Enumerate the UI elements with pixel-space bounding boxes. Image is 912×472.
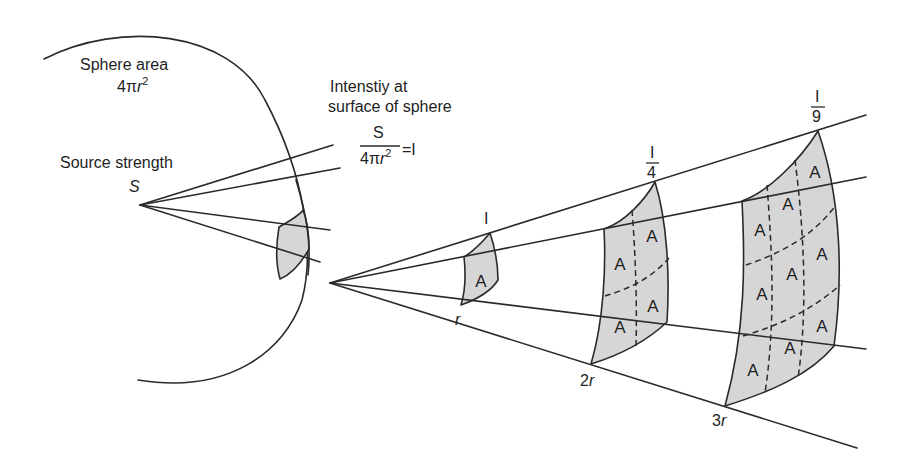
area-label-3r-5: A (786, 265, 798, 284)
intensity-3r-den: 9 (812, 108, 821, 125)
patch-r (461, 233, 498, 305)
distance-label-2r: 2r (580, 372, 595, 389)
intensity-label-line2: surface of sphere (328, 98, 452, 115)
area-label-2r-2: A (614, 255, 626, 274)
sphere-area-formula: 4πr2 (117, 75, 148, 95)
patch-2r (591, 182, 668, 364)
intensity-equals: =I (402, 141, 416, 158)
intensity-denominator: 4πr2 (360, 147, 391, 167)
area-label-2r-1: A (646, 227, 658, 246)
inverse-square-law-diagram: Sphere area 4πr2 Source strength S Inten… (0, 0, 912, 472)
distance-label-r: r (455, 311, 461, 328)
formula-exp: 2 (142, 75, 148, 87)
intensity-label-line1: Intenstiy at (330, 78, 408, 95)
denominator-base: 4π (360, 150, 380, 167)
area-label-3r-6: A (756, 285, 768, 304)
area-label-3r-7: A (816, 317, 828, 336)
sphere-surface-patch (277, 210, 309, 279)
area-label-3r-9: A (747, 361, 759, 380)
area-label-3r-3: A (754, 221, 766, 240)
intensity-3r-num: I (815, 88, 819, 105)
area-label-3r-8: A (784, 339, 796, 358)
intensity-2r-num: I (650, 144, 654, 161)
area-label-3r-4: A (816, 245, 828, 264)
intensity-2r-den: 4 (647, 164, 656, 181)
source-symbol: S (129, 178, 140, 195)
intensity-numerator: S (373, 124, 384, 141)
source-strength-label: Source strength (60, 154, 173, 171)
denominator-exp: 2 (385, 147, 391, 159)
sphere-group: Sphere area 4πr2 Source strength S Inten… (44, 36, 452, 383)
area-label-r: A (475, 272, 487, 291)
intensity-at-r: I (484, 210, 488, 227)
patch-3r (725, 131, 839, 406)
area-label-2r-3: A (647, 297, 659, 316)
intensity-at-2r: I 4 (646, 144, 659, 181)
intensity-at-3r: I 9 (811, 88, 825, 125)
area-label-3r-2: A (782, 195, 794, 214)
distance-label-3r: 3r (712, 412, 727, 429)
area-label-3r-1: A (809, 163, 821, 182)
sphere-area-label: Sphere area (80, 56, 168, 73)
area-label-2r-4: A (614, 318, 626, 337)
formula-base: 4π (117, 78, 137, 95)
